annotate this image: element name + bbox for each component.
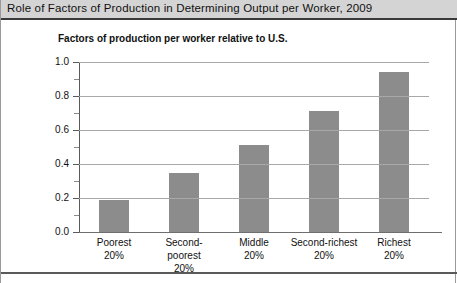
gridline bbox=[79, 198, 429, 199]
bar bbox=[239, 145, 269, 232]
y-axis-minor-tick bbox=[74, 147, 79, 148]
y-axis-label: 0.0 bbox=[29, 226, 69, 237]
y-axis-label: 0.6 bbox=[29, 124, 69, 135]
y-axis-minor-tick bbox=[74, 113, 79, 114]
x-axis-label: Poorest20% bbox=[79, 236, 149, 262]
y-axis-minor-tick bbox=[74, 181, 79, 182]
plot-area bbox=[79, 62, 429, 232]
y-axis-label: 1.0 bbox=[29, 56, 69, 67]
y-axis-label: 0.8 bbox=[29, 90, 69, 101]
y-axis-tick bbox=[73, 164, 79, 165]
y-axis-tick bbox=[73, 130, 79, 131]
x-axis-label: Second-poorest20% bbox=[149, 236, 219, 275]
bottom-divider bbox=[1, 272, 457, 274]
y-axis-label: 0.2 bbox=[29, 192, 69, 203]
y-axis-minor-tick bbox=[74, 215, 79, 216]
gridline bbox=[79, 164, 429, 165]
y-axis-label: 0.4 bbox=[29, 158, 69, 169]
y-axis-tick bbox=[73, 198, 79, 199]
bar bbox=[99, 200, 129, 232]
x-axis-label: Second-richest20% bbox=[289, 236, 359, 262]
gridline bbox=[79, 62, 429, 63]
x-axis-baseline bbox=[79, 232, 442, 233]
y-axis-tick bbox=[73, 96, 79, 97]
y-axis-tick bbox=[73, 62, 79, 63]
y-axis-minor-tick bbox=[74, 79, 79, 80]
gridline bbox=[79, 96, 429, 97]
bar bbox=[169, 173, 199, 232]
x-axis-label: Richest20% bbox=[359, 236, 429, 262]
x-axis-label: Middle20% bbox=[219, 236, 289, 262]
gridline bbox=[79, 130, 429, 131]
y-axis-tick bbox=[73, 232, 79, 233]
bar-chart: 0.00.20.40.60.81.0Poorest20%Second-poore… bbox=[1, 0, 457, 283]
